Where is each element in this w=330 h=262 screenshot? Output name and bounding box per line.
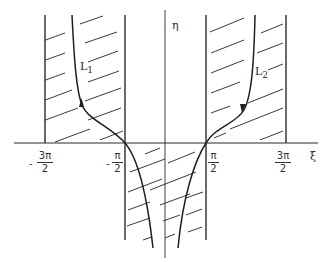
tick-pi-2: π 2 — [208, 151, 219, 174]
tick-neg-pi-2: π 2 — [112, 151, 123, 174]
tick-neg-pi-2-sign: - — [106, 158, 110, 169]
eta-label: η — [172, 20, 179, 31]
xi-label: ξ — [310, 151, 316, 162]
tick-neg-3pi-2-sign: - — [29, 158, 33, 169]
strip-boundaries — [45, 15, 286, 240]
hatch-upper-left — [40, 16, 123, 142]
hatch-upper-right — [210, 18, 283, 140]
contour-diagram — [0, 0, 330, 262]
L1-label: L1 — [80, 60, 93, 75]
tick-neg-3pi-2: 3π 2 — [37, 151, 53, 174]
L2-label: L2 — [255, 65, 268, 80]
curve-L2 — [178, 15, 255, 248]
tick-3pi-2: 3π 2 — [275, 151, 291, 174]
